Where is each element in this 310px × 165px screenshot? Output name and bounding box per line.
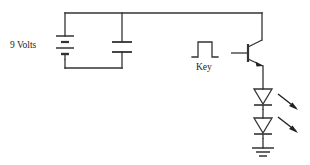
pulse-waveform-path	[192, 42, 218, 57]
led-2-triangle	[254, 118, 272, 133]
battery-label: 9 Volts	[10, 40, 37, 50]
battery-symbol	[56, 36, 74, 60]
transistor-symbol	[231, 40, 263, 67]
led-2-symbol	[254, 117, 298, 139]
led-1-emission-arrow	[278, 94, 298, 110]
transistor-emitter-arrowhead	[256, 62, 264, 67]
circuit-diagram: 9 Volts Key	[0, 0, 310, 165]
led-2-emission-arrow	[278, 117, 298, 133]
capacitor-symbol	[112, 42, 132, 52]
ground-symbol	[252, 148, 274, 156]
led-1-triangle	[254, 89, 272, 104]
key-label: Key	[196, 62, 212, 72]
key-pulse-symbol	[192, 42, 218, 57]
transistor-collector-lead	[248, 40, 262, 47]
led-1-symbol	[254, 89, 298, 110]
